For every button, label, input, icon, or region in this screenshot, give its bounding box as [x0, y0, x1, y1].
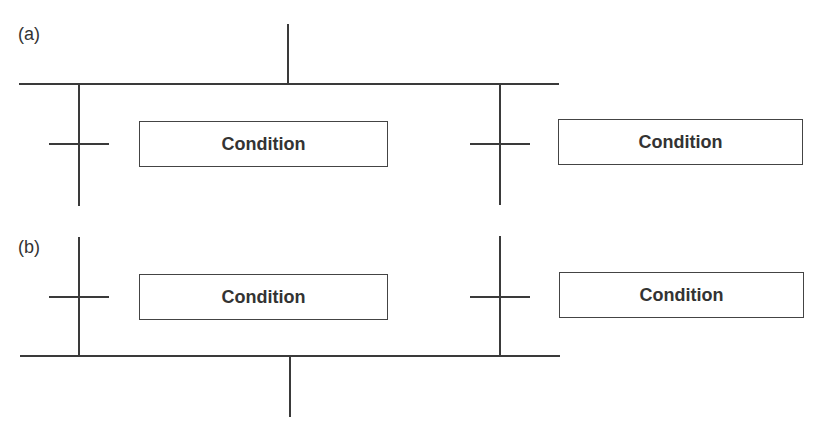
panel-b-label: (b) — [18, 237, 40, 258]
outgoing-line — [289, 356, 291, 417]
divergence-bar — [19, 83, 559, 85]
condition-box: Condition — [559, 272, 804, 318]
branch-line — [78, 84, 80, 206]
transition-bar — [470, 143, 530, 145]
condition-box: Condition — [139, 274, 388, 320]
condition-box: Condition — [139, 121, 388, 167]
transition-bar — [470, 296, 530, 298]
panel-a-label: (a) — [18, 24, 40, 45]
transition-bar — [49, 296, 109, 298]
incoming-line — [287, 24, 289, 85]
condition-box: Condition — [558, 119, 803, 165]
transition-bar — [49, 143, 109, 145]
